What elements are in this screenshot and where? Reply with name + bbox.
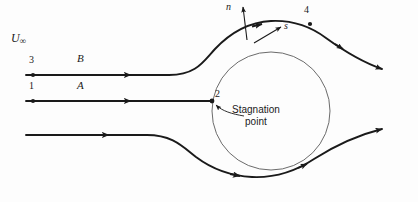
stagnation-label-line-2: point [232,116,280,128]
normal-vector-label: n [226,2,231,12]
point-marker-3 [31,73,35,77]
streamline-label-b: B [77,53,84,64]
figure-canvas: U∞ 3 B 1 A 2 4 n s Stagnation point [0,0,418,202]
tangent-vector-arrow [254,27,281,43]
streamline-bottom-arrow-2 [230,174,240,176]
streamline-b-arrow-3 [335,44,343,49]
streamline-label-a: A [77,80,84,91]
freestream-velocity-label: U∞ [11,32,26,46]
point-label-3: 3 [29,55,34,65]
streamline-bottom [26,129,382,177]
stagnation-label-line-1: Stagnation [232,104,280,116]
point-label-2: 2 [215,89,220,99]
point-label-1: 1 [29,81,34,91]
tangent-vector-label: s [284,21,288,31]
streamline-bottom-arrow-3 [298,164,307,168]
streamline-b [26,21,382,75]
point-marker-4 [308,22,312,26]
point-label-4: 4 [304,5,309,15]
point-marker-1 [31,99,35,103]
point-marker-2-stagnation [210,99,215,104]
flow-diagram-svg [0,0,418,202]
normal-vector-arrow [243,7,247,40]
stagnation-point-label: Stagnation point [232,104,280,128]
